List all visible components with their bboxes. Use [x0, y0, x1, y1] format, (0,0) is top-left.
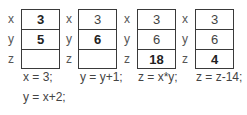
code-line: y = y+1; [80, 70, 123, 84]
var-label-z: z [5, 49, 17, 69]
cell-z [22, 50, 59, 70]
cell-x: 3 [22, 10, 59, 30]
var-label-y: y [179, 29, 191, 49]
code-line: z = x*y; [138, 70, 178, 84]
cell-x: 3 [138, 10, 175, 30]
code-line: z = z-14; [196, 70, 242, 84]
var-label-y: y [5, 29, 17, 49]
memory-box: 3 6 [78, 9, 117, 69]
cell-z: 4 [196, 50, 233, 70]
cell-x: 3 [79, 10, 116, 30]
var-label-y: y [63, 29, 75, 49]
var-label-x: x [63, 9, 75, 29]
var-label-y: y [121, 29, 133, 49]
cell-y: 6 [196, 30, 233, 50]
cell-y: 5 [22, 30, 59, 50]
cell-z: 18 [138, 50, 175, 70]
code-line: y = x+2; [23, 90, 66, 104]
var-label-x: x [179, 9, 191, 29]
var-label-x: x [5, 9, 17, 29]
code-line: x = 3; [23, 70, 53, 84]
var-label-z: z [63, 49, 75, 69]
memory-box: 3 5 [21, 9, 60, 69]
cell-y: 6 [138, 30, 175, 50]
var-label-z: z [179, 49, 191, 69]
memory-box: 3 6 18 [137, 9, 176, 69]
cell-y: 6 [79, 30, 116, 50]
var-label-z: z [121, 49, 133, 69]
memory-box: 3 6 4 [195, 9, 234, 69]
cell-z [79, 50, 116, 70]
var-label-x: x [121, 9, 133, 29]
cell-x: 3 [196, 10, 233, 30]
